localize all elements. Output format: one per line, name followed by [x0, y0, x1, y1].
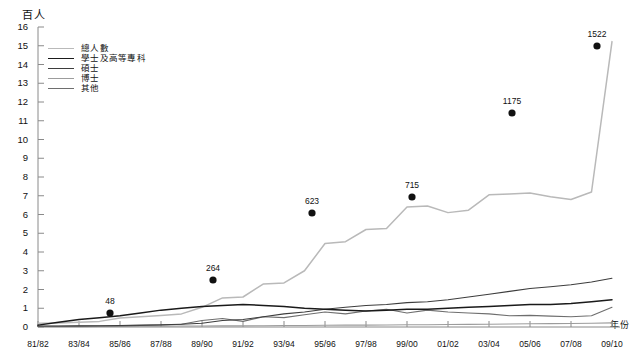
annotation-value-label: 715 — [394, 180, 430, 190]
chart-container: 百人 年份 總人數學士及高等專科碩士博士其他 16151413121110987… — [0, 0, 633, 358]
legend-item-label: 碩士 — [81, 64, 100, 73]
annotation-value-label: 1522 — [579, 29, 615, 39]
y-tick-label: 8 — [8, 171, 28, 182]
annotation-dot — [308, 209, 315, 216]
legend-item-1[interactable]: 總人數 — [48, 44, 146, 53]
y-tick-label: 4 — [8, 246, 28, 257]
x-tick-label: 97/98 — [344, 339, 388, 349]
y-tick-label: 10 — [8, 134, 28, 145]
x-tick-label: 95/96 — [303, 339, 347, 349]
y-tick-label: 11 — [8, 115, 28, 126]
annotation-value-label: 264 — [195, 263, 231, 273]
y-tick-label: 5 — [8, 227, 28, 238]
y-tick-label: 0 — [8, 321, 28, 332]
x-tick-label: 81/82 — [16, 339, 60, 349]
y-tick-label: 14 — [8, 59, 28, 70]
annotation-dot — [106, 309, 113, 316]
chart-legend: 總人數學士及高等專科碩士博士其他 — [48, 44, 146, 94]
legend-swatch-icon — [48, 88, 74, 89]
x-tick-label: 07/08 — [549, 339, 593, 349]
x-tick-label: 85/86 — [98, 339, 142, 349]
annotation-dot — [508, 109, 515, 116]
legend-item-4[interactable]: 博士 — [48, 74, 146, 83]
y-tick-label: 13 — [8, 77, 28, 88]
y-tick-label: 15 — [8, 40, 28, 51]
legend-item-5[interactable]: 其他 — [48, 84, 146, 93]
y-tick-label: 7 — [8, 190, 28, 201]
annotation-value-label: 48 — [92, 296, 128, 306]
y-tick-label: 12 — [8, 96, 28, 107]
y-tick-label: 9 — [8, 152, 28, 163]
y-tick-label: 2 — [8, 284, 28, 295]
annotation-value-label: 1175 — [494, 96, 530, 106]
x-tick-label: 01/02 — [426, 339, 470, 349]
legend-item-2[interactable]: 學士及高等專科 — [48, 54, 146, 63]
y-tick-label: 3 — [8, 265, 28, 276]
x-tick-label: 87/88 — [139, 339, 183, 349]
x-tick-label: 91/92 — [221, 339, 265, 349]
legend-swatch-icon — [48, 48, 74, 49]
legend-item-label: 總人數 — [81, 44, 109, 53]
x-tick-label: 09/10 — [590, 339, 633, 349]
legend-item-label: 學士及高等專科 — [81, 54, 146, 63]
x-tick-label: 05/06 — [508, 339, 552, 349]
y-tick-label: 6 — [8, 209, 28, 220]
legend-item-3[interactable]: 碩士 — [48, 64, 146, 73]
annotation-dot — [209, 276, 216, 283]
annotation-dot — [408, 193, 415, 200]
y-tick-label: 1 — [8, 302, 28, 313]
legend-swatch-icon — [48, 58, 74, 59]
x-tick-label: 03/04 — [467, 339, 511, 349]
y-tick-label: 16 — [8, 21, 28, 32]
annotation-value-label: 623 — [294, 196, 330, 206]
x-tick-label: 83/84 — [57, 339, 101, 349]
legend-swatch-icon — [48, 68, 74, 69]
legend-swatch-icon — [48, 78, 74, 79]
x-tick-label: 89/90 — [180, 339, 224, 349]
annotation-dot — [593, 42, 600, 49]
x-tick-label: 93/94 — [262, 339, 306, 349]
legend-item-label: 博士 — [81, 74, 100, 83]
x-tick-label: 99/00 — [385, 339, 429, 349]
legend-item-label: 其他 — [81, 84, 100, 93]
